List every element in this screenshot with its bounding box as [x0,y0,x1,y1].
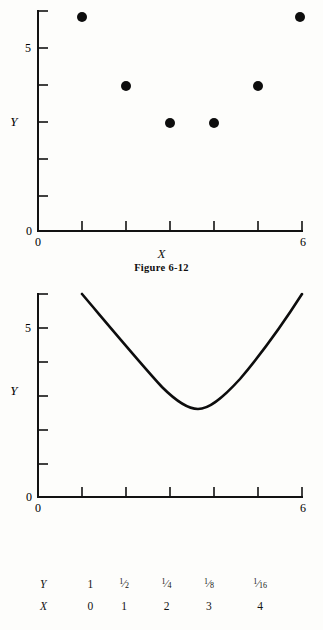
figure-page: 5 0 0 6 Y X Figure 6-12 [0,0,323,630]
y-value-cell: 1⁄8 [188,572,230,595]
fraction-one-eighth: 1⁄8 [204,577,214,590]
x-tick-label-0-6-13: 0 [35,501,41,515]
x-tick-marks-6-12 [82,221,302,231]
figure-6-13: 5 0 0 6 Y X Figure 6-13 [0,283,323,563]
parabola-curve [82,294,302,409]
y-tick-label-5-6-13: 5 [25,321,31,335]
x-value-cell: 0 [78,595,103,617]
table-row: Y 1 1⁄2 1⁄4 1⁄8 1⁄16 [38,572,290,595]
data-point [121,81,131,91]
fraction-denominator: 16 [259,581,267,590]
y-value-cell: 1⁄4 [145,572,187,595]
data-table: Y 1 1⁄2 1⁄4 1⁄8 1⁄16 X 0 1 2 [0,572,323,630]
fraction-one-quarter: 1⁄4 [162,577,172,590]
y-tick-label-0-6-12: 0 [26,224,32,238]
x-value-cell: 4 [230,595,290,617]
x-value-cell: 2 [145,595,187,617]
fraction-denominator: 4 [167,581,171,590]
scatter-points-6-12 [77,12,305,128]
data-point [253,81,263,91]
y-tick-label-0-6-13: 0 [26,490,32,504]
y-value-cell: 1⁄2 [103,572,145,595]
y-tick-marks-6-13 [38,294,48,464]
fraction-denominator: 8 [210,581,214,590]
table-row: X 0 1 2 3 4 [38,595,290,617]
x-value-cell: 3 [188,595,230,617]
row-label-x: X [38,595,78,617]
data-point [209,118,219,128]
line-plot-6-13: 5 0 0 6 Y [0,283,323,528]
fraction-one-sixteenth: 1⁄16 [253,577,267,590]
data-point [77,12,87,22]
y-axis-title-6-13: Y [10,383,19,398]
xy-value-table: Y 1 1⁄2 1⁄4 1⁄8 1⁄16 X 0 1 2 [38,572,290,617]
x-tick-marks-6-13 [82,487,302,497]
figure-6-12: 5 0 0 6 Y X Figure 6-12 [0,0,323,275]
y-tick-marks-6-12 [38,11,48,196]
figure-caption-6-12: Figure 6-12 [0,262,323,273]
y-value-cell: 1 [78,572,103,595]
data-point [295,12,305,22]
y-tick-label-5-6-12: 5 [25,41,31,55]
x-axis-title-6-12: X [0,246,323,262]
x-tick-label-6-6-13: 6 [300,501,306,515]
fraction-denominator: 2 [125,581,129,590]
scatter-plot-6-12: 5 0 0 6 Y [0,0,323,260]
data-point [165,118,175,128]
x-value-cell: 1 [103,595,145,617]
y-value-cell: 1⁄16 [230,572,290,595]
fraction-one-half: 1⁄2 [119,577,129,590]
row-label-y: Y [38,572,78,595]
y-axis-title-6-12: Y [10,114,19,129]
